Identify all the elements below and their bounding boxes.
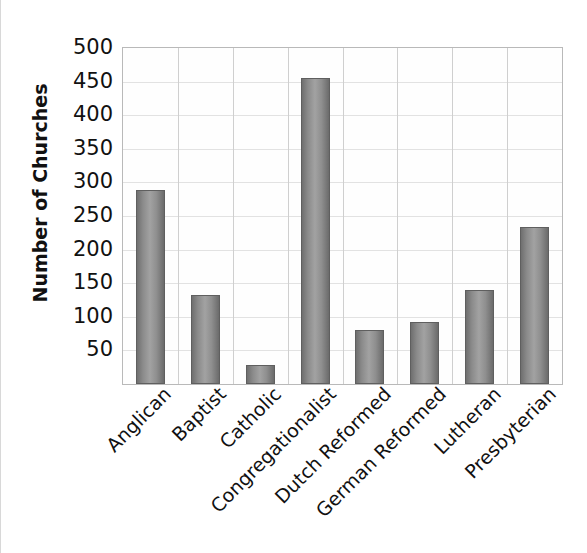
vertical-gridline [452, 48, 453, 384]
vertical-gridline [343, 48, 344, 384]
bar [355, 330, 384, 384]
bar [246, 365, 275, 384]
plot-area [122, 47, 563, 385]
vertical-gridline [397, 48, 398, 384]
x-axis-tick-labels: AnglicanBaptistCatholicCongregationalist… [122, 384, 561, 552]
y-axis-tick-label: 150 [73, 272, 113, 293]
bar [410, 322, 439, 384]
y-axis-tick-label: 450 [73, 70, 113, 91]
bar [136, 190, 165, 384]
y-axis-tick-label: 100 [73, 305, 113, 326]
y-axis-title: Number of Churches [23, 0, 57, 385]
y-axis-tick-label: 50 [86, 339, 113, 360]
y-axis-tick-labels: 50100150200250300350400450500 [59, 0, 117, 390]
vertical-gridline [507, 48, 508, 384]
bar [191, 295, 220, 384]
x-axis-tick-label: Anglican [104, 384, 176, 456]
y-axis-tick-label: 500 [73, 37, 113, 58]
vertical-gridline [288, 48, 289, 384]
y-axis-tick-label: 350 [73, 137, 113, 158]
y-axis-title-label: Number of Churches [29, 83, 51, 302]
y-axis-tick-label: 250 [73, 205, 113, 226]
y-axis-tick-label: 200 [73, 238, 113, 259]
vertical-gridline [178, 48, 179, 384]
y-axis-tick-label: 400 [73, 104, 113, 125]
y-axis-tick-label: 300 [73, 171, 113, 192]
bar [465, 290, 494, 384]
bar-chart: Number of Churches 501001502002503003504… [0, 0, 587, 553]
bar [520, 227, 549, 384]
vertical-gridline [233, 48, 234, 384]
bar [301, 78, 330, 384]
